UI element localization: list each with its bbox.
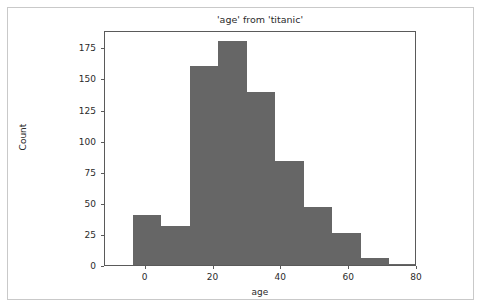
- y-axis-tick-label: 100: [58, 136, 96, 148]
- x-axis-tick-label: 80: [396, 271, 436, 283]
- x-axis-tick-label: 40: [260, 271, 300, 283]
- y-axis-tick: [101, 204, 104, 205]
- histogram-bar: [133, 215, 161, 265]
- x-axis-tick: [348, 266, 349, 269]
- histogram-bar: [304, 207, 332, 265]
- x-axis-tick: [145, 266, 146, 269]
- y-axis-tick-label: 150: [58, 73, 96, 85]
- histogram-bar: [161, 226, 189, 265]
- x-axis-tick-label: 0: [125, 271, 165, 283]
- y-axis-tick-label: 0: [58, 260, 96, 272]
- x-axis-tick: [213, 266, 214, 269]
- histogram-bar: [275, 161, 303, 265]
- y-axis-tick-label: 50: [58, 198, 96, 210]
- histogram-bar: [218, 41, 246, 265]
- y-axis-label: Count: [17, 92, 29, 182]
- x-axis-tick: [280, 266, 281, 269]
- x-axis-tick-label: 20: [193, 271, 233, 283]
- histogram-bars: [105, 32, 415, 265]
- y-axis-tick-label: 75: [58, 167, 96, 179]
- y-axis-tick-label: 175: [58, 42, 96, 54]
- y-axis-tick-label: 25: [58, 229, 96, 241]
- x-axis-label: age: [104, 286, 416, 298]
- chart-title: 'age' from 'titanic': [104, 13, 416, 27]
- y-axis-tick: [101, 48, 104, 49]
- plot-axes: [104, 31, 416, 266]
- y-axis-tick: [101, 266, 104, 267]
- y-axis-tick: [101, 111, 104, 112]
- x-axis-tick-label: 60: [328, 271, 368, 283]
- histogram-bar: [190, 66, 218, 265]
- histogram-bar: [332, 233, 360, 265]
- histogram-bar: [361, 258, 389, 265]
- y-axis-tick-label: 125: [58, 105, 96, 117]
- y-axis-tick: [101, 173, 104, 174]
- histogram-bar: [389, 264, 415, 265]
- x-axis-tick: [416, 266, 417, 269]
- y-axis-tick: [101, 79, 104, 80]
- y-axis-tick: [101, 235, 104, 236]
- histogram-bar: [247, 92, 275, 265]
- figure-canvas: 'age' from 'titanic' age Count 020406080…: [0, 0, 481, 307]
- y-axis-tick: [101, 142, 104, 143]
